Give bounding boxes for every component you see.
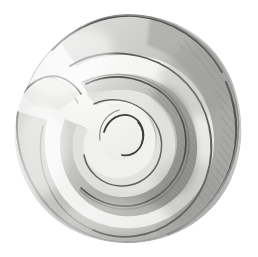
artboard: Pencil drawing of a coiled spiral shell … [0,0,258,257]
shell-drawing [0,0,258,257]
